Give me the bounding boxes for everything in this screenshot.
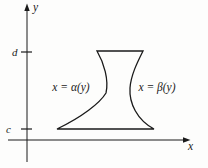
diagram-canvas: y x d c x = α(y) x = β(y) <box>0 0 208 168</box>
left-curve-label: x = α(y) <box>51 81 90 94</box>
math-figure: y x d c x = α(y) x = β(y) <box>0 0 208 168</box>
x-axis-label: x <box>187 140 194 152</box>
tick-label-d: d <box>12 46 18 58</box>
y-axis-arrow-icon <box>24 4 29 12</box>
right-curve-label: x = β(y) <box>137 81 175 94</box>
tick-label-c: c <box>6 123 11 135</box>
y-axis-label: y <box>32 1 39 14</box>
